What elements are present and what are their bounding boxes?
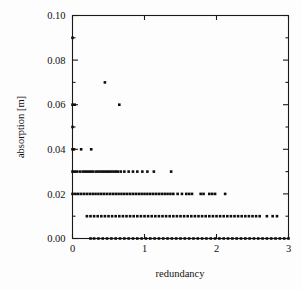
data-point: [172, 193, 175, 196]
data-point: [90, 148, 93, 151]
data-point: [140, 193, 143, 196]
x-tick-label: 0: [70, 243, 75, 254]
data-point: [158, 193, 161, 196]
y-axis-tick-labels: 0.000.020.040.060.080.10: [47, 10, 66, 244]
data-point: [186, 215, 189, 218]
data-point: [214, 193, 217, 196]
data-point: [266, 237, 269, 240]
x-axis-tick-labels: 0123: [70, 243, 291, 254]
data-point: [106, 237, 109, 240]
data-point: [258, 215, 261, 218]
data-point: [201, 215, 204, 218]
data-point: [191, 193, 194, 196]
data-point: [240, 215, 243, 218]
data-point: [163, 193, 166, 196]
data-point: [71, 126, 74, 129]
data-point: [122, 215, 125, 218]
data-point: [208, 215, 211, 218]
y-tick-label: 0.02: [47, 189, 65, 200]
data-point: [161, 215, 164, 218]
data-point: [170, 170, 173, 173]
data-point: [153, 170, 156, 173]
data-point: [132, 237, 135, 240]
y-axis-title: absorption [m]: [15, 96, 26, 158]
data-point: [237, 215, 240, 218]
data-point: [112, 193, 115, 196]
data-point: [152, 193, 155, 196]
data-point: [160, 193, 163, 196]
data-point: [117, 170, 120, 173]
data-point: [166, 193, 169, 196]
data-point: [235, 237, 238, 240]
data-point: [114, 237, 117, 240]
data-point: [188, 193, 191, 196]
data-point: [205, 237, 208, 240]
data-point: [101, 237, 104, 240]
data-point: [104, 81, 107, 84]
x-tick-label: 1: [142, 243, 147, 254]
data-point: [255, 215, 258, 218]
data-point: [179, 237, 182, 240]
data-point: [129, 193, 132, 196]
data-point: [146, 193, 149, 196]
y-tick-label: 0.10: [47, 10, 65, 21]
y-tick-label: 0.00: [47, 233, 65, 244]
data-point: [141, 170, 144, 173]
data-point: [94, 193, 97, 196]
data-point: [158, 237, 161, 240]
data-point: [276, 215, 279, 218]
data-point: [231, 237, 234, 240]
data-point: [127, 237, 130, 240]
data-point: [222, 237, 225, 240]
data-point: [257, 237, 260, 240]
y-axis-ticks: [73, 16, 289, 239]
scatter-plot-figure: 0123 0.000.020.040.060.080.10 redundancy…: [0, 0, 301, 290]
data-point: [91, 193, 94, 196]
data-point: [129, 215, 132, 218]
data-point: [123, 170, 126, 173]
data-point: [190, 215, 193, 218]
data-point: [77, 193, 80, 196]
data-point: [261, 237, 264, 240]
data-point: [172, 215, 175, 218]
data-point: [146, 170, 149, 173]
data-point: [274, 237, 277, 240]
data-point: [271, 215, 274, 218]
data-point: [80, 193, 83, 196]
data-point: [136, 215, 139, 218]
data-point: [218, 237, 221, 240]
data-point: [104, 215, 107, 218]
data-point: [199, 193, 202, 196]
data-point: [171, 237, 174, 240]
data-point: [155, 193, 158, 196]
data-point: [162, 237, 165, 240]
data-point: [197, 215, 200, 218]
data-point: [97, 237, 100, 240]
data-point: [93, 237, 96, 240]
data-point: [143, 215, 146, 218]
y-tick-label: 0.06: [47, 99, 65, 110]
data-point: [137, 193, 140, 196]
data-point: [226, 215, 229, 218]
data-point: [132, 193, 135, 196]
data-point: [248, 237, 251, 240]
data-point: [153, 237, 156, 240]
data-point: [71, 193, 74, 196]
data-point: [208, 193, 211, 196]
data-point: [132, 215, 135, 218]
data-point: [93, 215, 96, 218]
data-point: [132, 170, 135, 173]
data-point: [149, 237, 152, 240]
data-point: [86, 215, 89, 218]
data-point: [145, 237, 148, 240]
data-point: [119, 237, 122, 240]
data-point: [175, 237, 178, 240]
x-tick-label: 2: [214, 243, 219, 254]
data-point: [74, 193, 77, 196]
data-point: [111, 215, 114, 218]
data-point: [212, 215, 215, 218]
data-point: [136, 170, 139, 173]
data-point: [92, 170, 95, 173]
data-point: [114, 215, 117, 218]
data-point: [71, 37, 74, 40]
